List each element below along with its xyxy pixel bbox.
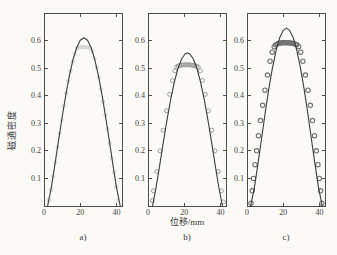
fit-curve	[153, 53, 223, 206]
subplot-b: 020400.10.20.30.40.50.6	[135, 13, 226, 217]
y-tick-label: 0.4	[31, 91, 41, 100]
y-tick-label: 0.4	[234, 91, 244, 100]
data-point	[312, 133, 316, 137]
data-point	[270, 50, 274, 54]
y-tick-label: 0.5	[234, 64, 244, 73]
y-tick-label: 0.5	[135, 64, 145, 73]
x-tick-label: 40	[113, 208, 121, 217]
y-tick-label: 0.6	[135, 36, 145, 45]
y-tick-label: 0.6	[234, 36, 244, 45]
y-tick-label: 0.2	[135, 146, 145, 155]
data-point	[173, 69, 177, 73]
y-tick-label: 0.1	[31, 174, 41, 183]
y-tick-label: 0.1	[135, 174, 145, 183]
y-tick-label: 0.5	[31, 64, 41, 73]
data-point	[198, 69, 202, 73]
data-point	[254, 149, 258, 153]
subplot-a: 020400.10.20.30.40.50.6	[31, 13, 122, 217]
y-tick-label: 0.3	[31, 119, 41, 128]
fit-curve	[251, 28, 323, 206]
subplot-caption-a: a)	[63, 232, 103, 242]
figure-scan: 020400.10.20.30.40.50.6020400.10.20.30.4…	[0, 0, 337, 255]
data-point	[263, 88, 267, 92]
data-point	[303, 73, 307, 77]
y-tick-label: 0.2	[234, 146, 244, 155]
y-axis-label: 磁通密度	[5, 108, 18, 152]
data-point	[265, 73, 269, 77]
subplot-c: 020400.10.20.30.40.50.6	[234, 13, 325, 217]
axis-box	[44, 13, 122, 206]
y-tick-label: 0.4	[135, 91, 145, 100]
data-point	[310, 118, 314, 122]
y-tick-label: 0.3	[234, 119, 244, 128]
y-tick-label: 0.3	[135, 119, 145, 128]
data-point	[314, 149, 318, 153]
x-tick-label: 0	[245, 208, 249, 217]
subplot-caption-b: b)	[167, 232, 207, 242]
data-point	[308, 103, 312, 107]
data-point	[253, 162, 257, 166]
data-point	[306, 88, 310, 92]
data-point	[301, 59, 305, 63]
data-point	[298, 50, 302, 54]
x-tick-label: 40	[316, 208, 324, 217]
data-point	[258, 118, 262, 122]
axis-box	[148, 13, 226, 206]
x-tick-label: 20	[279, 208, 287, 217]
data-point	[316, 162, 320, 166]
subplot-caption-c: c)	[266, 232, 306, 242]
x-tick-label: 20	[76, 208, 84, 217]
x-tick-label: 0	[42, 208, 46, 217]
data-point	[260, 103, 264, 107]
data-point	[256, 133, 260, 137]
y-tick-label: 0.1	[234, 174, 244, 183]
fit-curve	[48, 38, 121, 206]
data-point	[268, 59, 272, 63]
x-axis-label: 位移/mm	[147, 215, 227, 228]
y-tick-label: 0.6	[31, 36, 41, 45]
y-tick-label: 0.2	[31, 146, 41, 155]
